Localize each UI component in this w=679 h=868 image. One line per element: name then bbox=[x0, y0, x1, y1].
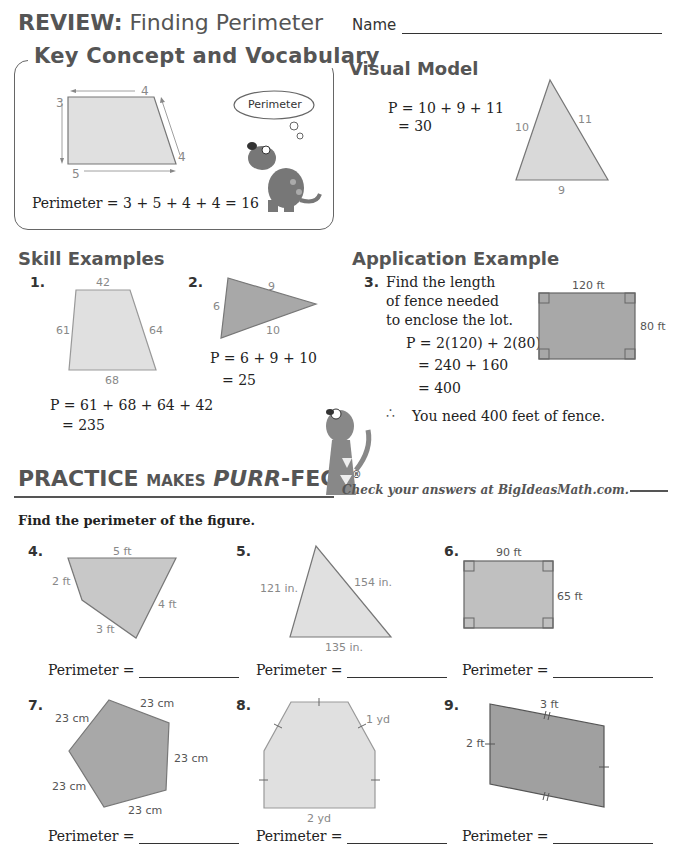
label-bottom: 3 ft bbox=[96, 623, 115, 636]
label-top: 5 ft bbox=[113, 545, 132, 558]
problem-number: 7. bbox=[28, 697, 43, 713]
problem-number: 8. bbox=[236, 697, 251, 713]
side-label: 3 ft bbox=[540, 698, 559, 711]
label-left: 121 in. bbox=[260, 582, 298, 595]
problem-number: 4. bbox=[28, 543, 43, 559]
answer-field[interactable] bbox=[347, 663, 447, 678]
answer-field[interactable] bbox=[139, 829, 239, 844]
side-label: 23 cm bbox=[55, 712, 89, 725]
side-label: 23 cm bbox=[174, 752, 208, 765]
side-label: 1 yd bbox=[366, 713, 390, 726]
label-right: 154 in. bbox=[354, 576, 392, 589]
label-right: 65 ft bbox=[557, 590, 583, 603]
problem-number: 6. bbox=[444, 543, 459, 559]
answer-row: Perimeter = bbox=[462, 828, 653, 844]
side-label: 2 ft bbox=[466, 737, 485, 750]
answer-row: Perimeter = bbox=[256, 828, 447, 844]
problem-number: 5. bbox=[236, 543, 251, 559]
answer-row: Perimeter = bbox=[462, 662, 653, 678]
practice-figures bbox=[0, 0, 679, 868]
side-label: 2 yd bbox=[307, 812, 331, 825]
label-left: 2 ft bbox=[52, 575, 71, 588]
answer-row: Perimeter = bbox=[48, 662, 239, 678]
side-label: 23 cm bbox=[128, 804, 162, 817]
answer-field[interactable] bbox=[553, 663, 653, 678]
problem-number: 9. bbox=[444, 697, 459, 713]
answer-row: Perimeter = bbox=[48, 828, 239, 844]
answer-field[interactable] bbox=[347, 829, 447, 844]
side-label: 23 cm bbox=[140, 697, 174, 710]
label-bottom: 135 in. bbox=[325, 641, 363, 654]
answer-field[interactable] bbox=[553, 829, 653, 844]
label-top: 90 ft bbox=[496, 546, 522, 559]
label-right: 4 ft bbox=[158, 598, 177, 611]
answer-row: Perimeter = bbox=[256, 662, 447, 678]
answer-field[interactable] bbox=[139, 663, 239, 678]
side-label: 23 cm bbox=[52, 780, 86, 793]
